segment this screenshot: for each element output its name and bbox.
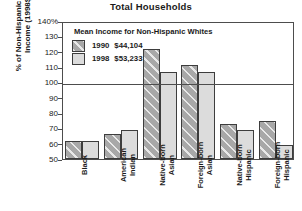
x-category-text-5: Foreign-born Hispanic [275,142,292,189]
y-tick-110: 110 [0,63,62,73]
legend-income-1990: $44,104 [114,41,142,50]
y-tick-60: 60 [0,140,62,150]
x-category-label-1: American Indian [101,163,140,209]
bar-1990-2 [143,49,160,159]
x-category-text-4: Native-born Hispanic [236,144,253,186]
y-tick-100: 100 [0,78,62,88]
legend-swatch-1990 [72,40,85,52]
reference-line-100 [63,84,293,85]
y-tick-140: 140% [0,17,62,27]
legend-income-1998: $53,233 [114,54,142,63]
y-tick-90: 90 [0,94,62,104]
legend-swatch-1998 [72,53,85,65]
x-category-label-2: Native-born Asian [139,163,178,209]
legend-label-1990: 1990$44,104 [92,41,143,50]
x-category-text-0: Black [81,155,90,175]
x-category-label-3: Foreign-born Asian [178,163,217,209]
legend-title: Mean Income for Non-Hispanic Whites [74,27,212,36]
y-tick-50: 50 [0,155,62,165]
x-category-text-1: American Indian [120,148,137,182]
legend-label-1998: 1998$53,233 [92,54,143,63]
y-tick-80: 80 [0,109,62,119]
legend-year-1990: 1990 [92,41,109,50]
x-category-label-4: Native-born Hispanic [217,163,256,209]
y-tick-120: 120 [0,48,62,58]
x-category-label-5: Foreign-born Hispanic [255,163,294,209]
chart-title: Total Households [0,1,302,12]
y-tick-130: 130 [0,32,62,42]
chart-legend: Mean Income for Non-Hispanic Whites 1990… [70,27,220,65]
x-category-text-3: Foreign-born Asian [197,142,214,189]
legend-year-1998: 1998 [92,54,109,63]
x-category-label-0: Black [62,163,101,209]
y-tick-70: 70 [0,124,62,134]
x-category-text-2: Native-born Asian [159,144,176,186]
chart-container: Total Households % of Non-Hispanic White… [0,0,302,211]
